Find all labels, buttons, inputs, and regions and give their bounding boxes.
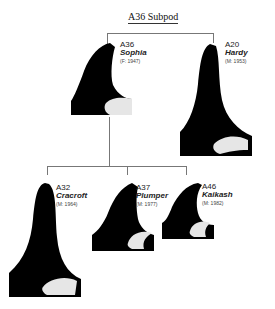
- member-name: Cracroft: [56, 192, 87, 200]
- offspring-bracket-horizontal: [47, 166, 187, 167]
- label-a36: A36 Sophia (F: 1947): [120, 41, 147, 65]
- label-a20: A20 Hardy (M: 1953): [225, 41, 248, 65]
- diagram-title: A36 Subpod: [128, 11, 178, 24]
- member-meta: (M: 1953): [225, 57, 248, 65]
- offspring-drop-a32: [47, 166, 48, 175]
- member-name: Kaikash: [202, 191, 233, 199]
- top-bracket-right-drop: [213, 33, 214, 43]
- offspring-drop-a37: [127, 166, 128, 175]
- member-name: Hardy: [225, 49, 248, 57]
- sophia-descent-line: [109, 117, 110, 166]
- offspring-drop-a46: [186, 166, 187, 175]
- member-name: Sophia: [120, 49, 147, 57]
- label-a32: A32 Cracroft (M: 1964): [56, 184, 87, 208]
- member-meta: (M: 1964): [56, 200, 87, 208]
- member-meta: (F: 1947): [120, 57, 147, 65]
- member-meta: (M: 1982): [202, 199, 233, 207]
- label-a46: A46 Kaikash (M: 1982): [202, 183, 233, 207]
- top-bracket-horizontal: [107, 33, 214, 34]
